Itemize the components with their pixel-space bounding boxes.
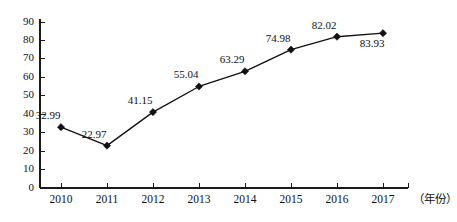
data-point-marker — [379, 30, 386, 37]
y-axis-tick-label: 50 — [23, 88, 35, 100]
data-point-marker — [287, 46, 294, 53]
line-chart: 0102030405060708090 20102011201220132014… — [0, 0, 457, 222]
y-axis-tick-label: 10 — [23, 162, 35, 174]
data-point-marker — [333, 33, 340, 40]
data-value-labels: 32.9922.9741.1555.0463.2974.9882.0283.93 — [36, 19, 385, 140]
x-axis-tick-label: 2011 — [96, 193, 119, 205]
y-axis-tick-label: 30 — [23, 125, 35, 137]
data-point-value-label: 41.15 — [128, 94, 153, 106]
y-axis-tick-label: 80 — [23, 33, 35, 45]
data-point-value-label: 83.93 — [360, 37, 385, 49]
y-axis-tick-label: 40 — [23, 107, 35, 119]
data-point-value-label: 82.02 — [312, 19, 337, 31]
x-axis-caption: （年份） — [413, 192, 457, 205]
x-axis-tick-label: 2014 — [234, 193, 257, 205]
data-point-value-label: 55.04 — [174, 68, 199, 80]
data-point-value-label: 32.99 — [36, 109, 61, 121]
data-point-value-label: 22.97 — [82, 128, 107, 140]
x-axis-tick-label: 2015 — [280, 193, 303, 205]
y-axis: 0102030405060708090 — [23, 15, 45, 193]
y-axis-tick-label: 60 — [23, 70, 35, 82]
data-point-value-label: 74.98 — [266, 32, 291, 44]
x-axis-tick-label: 2012 — [142, 193, 165, 205]
x-axis-tick-label: 2013 — [188, 193, 211, 205]
data-point-marker — [241, 68, 248, 75]
x-axis-tick-label: 2016 — [326, 193, 349, 205]
x-axis-tick-label: 2010 — [50, 193, 73, 205]
y-axis-tick-label: 20 — [23, 144, 35, 156]
data-point-marker — [57, 124, 64, 131]
data-point-marker — [195, 83, 202, 90]
series-polyline — [61, 33, 383, 145]
data-point-markers — [57, 30, 386, 150]
y-axis-tick-label: 70 — [23, 51, 35, 63]
chart-plot-area: 0102030405060708090 20102011201220132014… — [0, 0, 457, 222]
data-point-value-label: 63.29 — [220, 53, 245, 65]
data-series-line — [61, 33, 383, 145]
y-axis-tick-label: 0 — [29, 181, 35, 193]
x-axis-caption-label: （年份） — [413, 192, 457, 205]
y-axis-tick-label: 90 — [23, 15, 35, 27]
x-axis-tick-label: 2017 — [372, 193, 395, 205]
x-axis: 20102011201220132014201520162017 — [40, 183, 408, 205]
